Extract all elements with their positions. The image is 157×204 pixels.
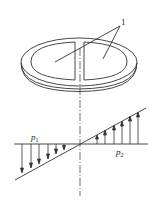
- arrows-left: [21, 144, 66, 173]
- pressure-subscript: 1: [36, 137, 39, 143]
- seal-ring: [21, 38, 137, 92]
- pocket-right: [84, 42, 127, 80]
- part-label-1: 1: [121, 18, 126, 27]
- arrows-right: [96, 112, 140, 144]
- pressure-label-p2: p2: [116, 148, 124, 158]
- pocket-left: [31, 42, 75, 80]
- pressure-label-p1: p1: [31, 133, 39, 143]
- pressure-subscript: 2: [121, 152, 124, 158]
- diagram-canvas: 1 p1 p2: [0, 0, 157, 204]
- diagram-drawing: [0, 0, 157, 204]
